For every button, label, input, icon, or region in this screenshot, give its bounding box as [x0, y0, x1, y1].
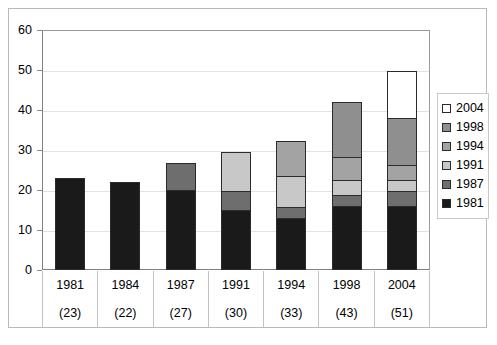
x-axis-column: 1998(43): [319, 271, 374, 327]
legend: 200419981994199119871981: [437, 93, 489, 219]
legend-item-1994[interactable]: 1994: [442, 137, 485, 156]
x-axis-total-label: (22): [98, 299, 152, 327]
x-axis-total-label: (51): [375, 299, 429, 327]
x-axis-total-label: (23): [43, 299, 97, 327]
legend-swatch-icon: [442, 104, 451, 113]
x-axis-year-label: 2004: [375, 271, 429, 299]
gridline: [43, 111, 429, 112]
gridline: [43, 71, 429, 72]
gridline: [43, 191, 429, 192]
y-axis-tick-label: 10: [2, 224, 32, 237]
y-axis: 0102030405060: [0, 30, 42, 270]
x-axis-column: 1994(33): [264, 271, 319, 327]
x-axis-total-label: (43): [319, 299, 373, 327]
x-axis-year-label: 1998: [319, 271, 373, 299]
legend-swatch-icon: [442, 142, 451, 151]
y-axis-tick-label: 60: [2, 24, 32, 37]
x-axis-total-label: (27): [154, 299, 208, 327]
y-axis-tick-label: 20: [2, 184, 32, 197]
legend-item-label: 1991: [456, 159, 484, 172]
x-axis-column: 1981(23): [43, 271, 98, 327]
legend-item-label: 1998: [456, 121, 484, 134]
x-axis-year-label: 1981: [43, 271, 97, 299]
gridline: [43, 231, 429, 232]
plot-area: [42, 30, 430, 270]
legend-item-1987[interactable]: 1987: [442, 175, 485, 194]
y-axis-tick-label: 50: [2, 64, 32, 77]
x-axis-column: 1991(30): [209, 271, 264, 327]
legend-swatch-icon: [442, 161, 451, 170]
chart-figure: 0102030405060 1981(23)1984(22)1987(27)19…: [0, 0, 497, 345]
y-axis-tick-label: 0: [2, 264, 32, 277]
legend-item-label: 1994: [456, 140, 484, 153]
x-axis-year-label: 1987: [154, 271, 208, 299]
legend-item-label: 1987: [456, 178, 484, 191]
x-axis-label-table: 1981(23)1984(22)1987(27)1991(30)1994(33)…: [42, 271, 430, 327]
legend-swatch-icon: [442, 123, 451, 132]
x-axis-year-label: 1984: [98, 271, 152, 299]
legend-swatch-icon: [442, 180, 451, 189]
gridline: [43, 151, 429, 152]
x-axis-year-label: 1994: [264, 271, 318, 299]
x-axis-year-label: 1991: [209, 271, 263, 299]
legend-item-label: 2004: [456, 102, 484, 115]
legend-item-2004[interactable]: 2004: [442, 99, 485, 118]
y-axis-tick-label: 40: [2, 104, 32, 117]
x-axis-column: 2004(51): [375, 271, 430, 327]
y-axis-tick-label: 30: [2, 144, 32, 157]
x-axis-column: 1987(27): [154, 271, 209, 327]
legend-item-label: 1981: [456, 197, 484, 210]
legend-item-1991[interactable]: 1991: [442, 156, 485, 175]
legend-swatch-icon: [442, 199, 451, 208]
x-axis-column: 1984(22): [98, 271, 153, 327]
x-axis-total-label: (30): [209, 299, 263, 327]
legend-item-1981[interactable]: 1981: [442, 194, 485, 213]
legend-item-1998[interactable]: 1998: [442, 118, 485, 137]
x-axis-total-label: (33): [264, 299, 318, 327]
